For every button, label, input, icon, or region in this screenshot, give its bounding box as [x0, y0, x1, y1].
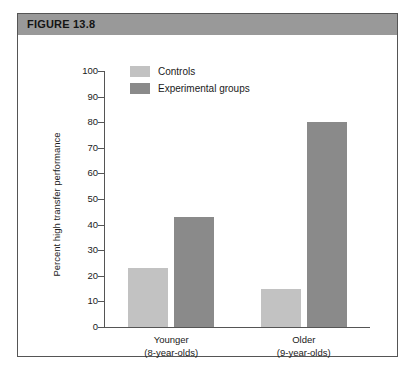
y-tick-label: 100	[72, 65, 98, 76]
x-category-label: Younger(8-year-olds)	[111, 333, 231, 359]
figure-number-label: FIGURE 13.8	[27, 18, 95, 30]
x-axis-line	[104, 327, 370, 328]
x-category-sublabel: (8-year-olds)	[111, 346, 231, 359]
x-category-sublabel: (9-year-olds)	[244, 346, 364, 359]
bar-controls-older	[261, 289, 301, 327]
y-tick-label: 40	[72, 219, 98, 230]
y-tick-label: 70	[72, 142, 98, 153]
y-tick-label: 30	[72, 244, 98, 255]
y-tick-label: 80	[72, 116, 98, 127]
bar-experimental-groups-older	[307, 122, 347, 327]
figure-panel: FIGURE 13.8 Controls Experimental groups…	[17, 13, 398, 357]
y-tick-label: 60	[72, 167, 98, 178]
bar-experimental-groups-younger	[174, 217, 214, 327]
y-tick-label: 90	[72, 91, 98, 102]
y-tick-label: 20	[72, 270, 98, 281]
y-tick-label: 50	[72, 193, 98, 204]
y-axis-title: Percent high transfer performance	[51, 105, 62, 305]
y-tick-label: 0	[72, 321, 98, 332]
figure-header-bar: FIGURE 13.8	[18, 14, 397, 35]
bar-series-layer	[105, 71, 370, 327]
bar-controls-younger	[128, 268, 168, 327]
x-category-label: Older(9-year-olds)	[244, 333, 364, 359]
y-tick-label: 10	[72, 295, 98, 306]
x-category-name: Older	[244, 333, 364, 346]
x-category-name: Younger	[111, 333, 231, 346]
chart-plot-area: Controls Experimental groups Percent hig…	[18, 35, 397, 357]
